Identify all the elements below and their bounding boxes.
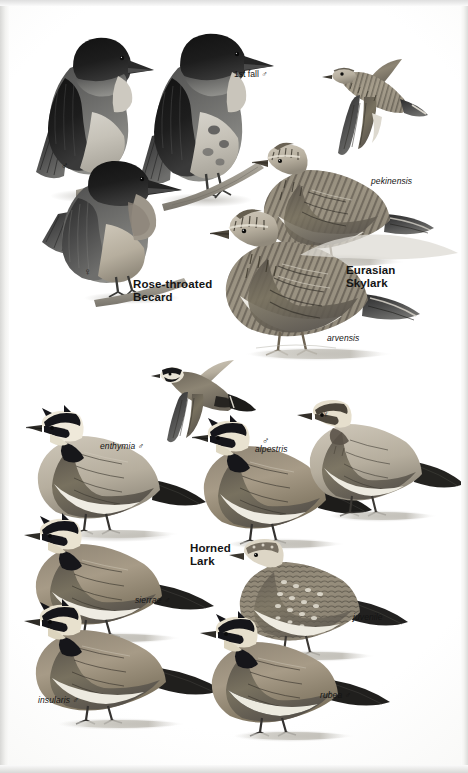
background-wash-skylark [300, 225, 460, 265]
plate-edge-top [0, 0, 468, 6]
plate-edge-bottom [0, 765, 468, 773]
label-sierrae-male: sierrae ♂ [135, 596, 171, 606]
label-becard-1st-fall-male: 1st fall ♂ [234, 70, 268, 80]
plate-edge-right [461, 0, 468, 773]
label-insularis-male: insularis ♂ [38, 696, 79, 706]
label-eurasian-skylark-line2: Skylark [346, 277, 388, 290]
label-rose-throated-becard-line1: Rose-throated [133, 278, 212, 291]
label-female-symbol: ♀ [322, 408, 330, 419]
label-becard-male-symbol: ♂ [61, 160, 69, 171]
label-enthymia-male: enthymia ♂ [100, 442, 144, 452]
field-guide-plate: ♂ 1st fall ♂ ♀ Rose-throated Becard peki… [0, 0, 468, 773]
label-becard-female-symbol: ♀ [84, 266, 92, 277]
label-pekinensis: pekinensis [371, 177, 412, 187]
bird-lark-rubea-male [186, 620, 396, 750]
plate-edge-left [0, 0, 9, 773]
label-horned-lark-line1: Horned [190, 542, 231, 555]
label-eurasian-skylark-line1: Eurasian [346, 264, 395, 277]
label-rubea-male: rubea ♂ [320, 691, 351, 701]
bird-lark-female [286, 398, 466, 528]
label-juvenile: juvenile [353, 613, 383, 623]
label-arvensis: arvensis [327, 334, 359, 344]
label-alpestris: alpestris [255, 445, 288, 455]
label-horned-lark-line2: Lark [190, 555, 215, 568]
label-rose-throated-becard-line2: Becard [133, 291, 173, 304]
